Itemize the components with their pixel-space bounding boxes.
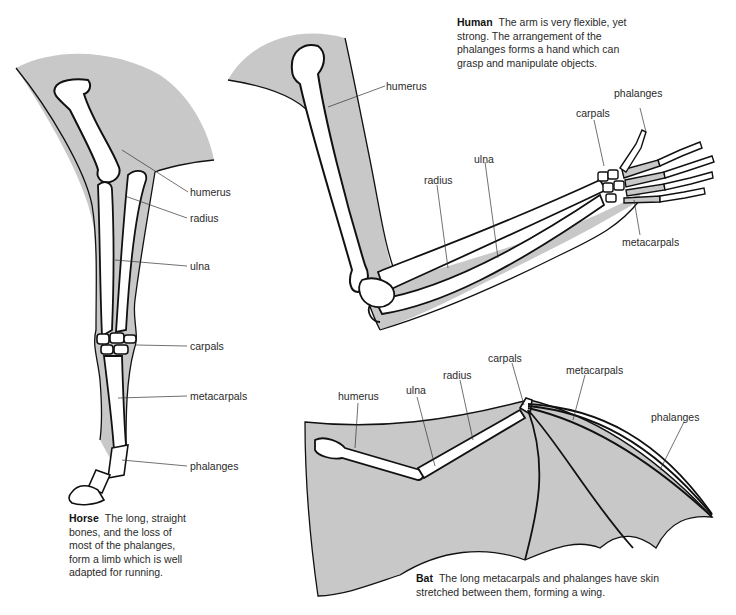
horse-label-humerus: humerus — [190, 186, 231, 198]
bat-label-ulna: ulna — [406, 384, 426, 396]
bat-caption-text: The long metacarpals and phalanges have … — [416, 572, 659, 598]
human-label-carpals: carpals — [576, 107, 610, 119]
horse-label-metacarpals: metacarpals — [190, 390, 247, 402]
human-caption: HumanThe arm is very flexible, yet stron… — [457, 16, 642, 70]
bat-caption: BatThe long metacarpals and phalanges ha… — [416, 572, 666, 599]
horse-label-ulna: ulna — [190, 260, 210, 272]
bat-caption-title: Bat — [416, 572, 433, 584]
horse-limb-drawing — [16, 54, 214, 505]
bat-label-phalanges: phalanges — [651, 411, 699, 423]
bat-label-metacarpals: metacarpals — [566, 364, 623, 376]
human-label-humerus: humerus — [386, 80, 427, 92]
bat-label-humerus: humerus — [338, 390, 379, 402]
human-label-radius: radius — [424, 174, 453, 186]
bat-label-carpals: carpals — [488, 352, 522, 364]
bat-label-radius: radius — [443, 369, 472, 381]
horse-caption-title: Horse — [69, 512, 99, 524]
horse-label-carpals: carpals — [190, 340, 224, 352]
human-label-metacarpals: metacarpals — [622, 236, 679, 248]
horse-label-radius: radius — [190, 212, 219, 224]
human-caption-title: Human — [457, 16, 493, 28]
horse-label-phalanges: phalanges — [190, 460, 238, 472]
human-label-phalanges: phalanges — [614, 87, 662, 99]
horse-caption: HorseThe long, straight bones, and the l… — [69, 512, 189, 580]
human-label-ulna: ulna — [474, 153, 494, 165]
human-arm-drawing — [228, 33, 714, 330]
